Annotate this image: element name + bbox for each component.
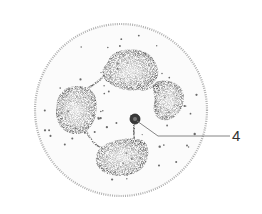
- cytoplasm-granule: [188, 146, 189, 147]
- cytoplasm-granule: [159, 146, 161, 148]
- cytoplasm-granule: [158, 164, 160, 166]
- cytoplasm-granule: [107, 47, 109, 49]
- cytoplasm-granule: [99, 117, 101, 119]
- cytoplasm-granule: [106, 126, 108, 128]
- cytoplasm-granule: [94, 131, 96, 133]
- cytoplasm-granule: [111, 178, 113, 180]
- cytoplasm-granule: [44, 129, 46, 131]
- cytoplasm-granule: [79, 78, 81, 80]
- cytoplasm-granule: [103, 93, 105, 95]
- cytoplasm-granule: [168, 77, 170, 79]
- cytoplasm-granule: [138, 35, 140, 37]
- cytoplasm-granule: [142, 134, 143, 135]
- cytoplasm-granule: [103, 85, 104, 86]
- cytoplasm-granule: [166, 125, 168, 127]
- cytoplasm-granule: [115, 122, 117, 124]
- cytoplasm-granule: [163, 144, 165, 146]
- cytoplasm-granule: [64, 144, 66, 146]
- cytoplasm-granule: [71, 137, 73, 139]
- cell-diagram: 4: [0, 0, 262, 214]
- cytoplasm-granule: [80, 46, 81, 47]
- cytoplasm-granule: [100, 72, 101, 73]
- cytoplasm-granule: [48, 129, 50, 131]
- cytoplasm-granule: [156, 45, 157, 46]
- cytoplasm-granule: [175, 161, 177, 163]
- cytoplasm-granule: [59, 87, 61, 89]
- cytoplasm-granule: [102, 110, 104, 112]
- cytoplasm-granule: [120, 38, 122, 40]
- cytoplasm-granule: [161, 73, 162, 74]
- cytoplasm-granule: [194, 133, 196, 135]
- cytoplasm-granule: [195, 94, 197, 96]
- label-4: 4: [232, 127, 240, 144]
- cytoplasm-granule: [100, 111, 102, 113]
- cytoplasm-granule: [185, 105, 186, 106]
- cytoplasm-granule: [49, 135, 51, 137]
- cytoplasm-granule: [186, 145, 188, 147]
- cytoplasm-granule: [119, 45, 121, 47]
- cytoplasm-granule: [126, 178, 127, 179]
- cytoplasm-granule: [190, 113, 192, 115]
- central-granule-core: [133, 117, 137, 121]
- cytoplasm-granule: [108, 91, 110, 93]
- cytoplasm-granule: [44, 110, 46, 112]
